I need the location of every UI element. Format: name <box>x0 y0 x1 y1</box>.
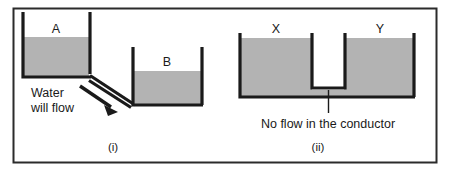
figure-container: A B Water will flow (i) <box>0 0 449 177</box>
vessel-b-label: B <box>163 55 171 69</box>
water-flow-annotation-line-2: will flow <box>30 101 75 115</box>
panel-i-caption: (i) <box>108 141 118 153</box>
no-flow-annotation: No flow in the conductor <box>261 117 395 131</box>
vessel-x-label: X <box>272 22 281 36</box>
vessel-x-water <box>241 38 312 97</box>
conductor-interior <box>313 34 344 88</box>
vessel-b-water <box>134 71 202 104</box>
water-flow-annotation-line-1: Water <box>31 86 64 100</box>
vessel-a-label: A <box>52 22 61 36</box>
vessel-y-label: Y <box>376 22 385 36</box>
panel-ii-caption: (ii) <box>312 141 325 153</box>
physics-diagram: A B Water will flow (i) <box>0 0 449 177</box>
vessel-a-water <box>24 37 89 77</box>
vessel-y-water <box>344 38 415 97</box>
